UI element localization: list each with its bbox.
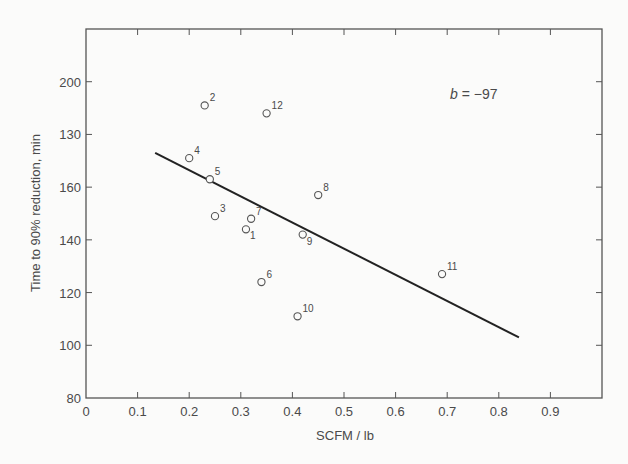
x-axis-label: SCFM / lb (316, 428, 374, 443)
point-label: 1 (250, 230, 256, 241)
x-tick-label: 0.3 (232, 404, 250, 419)
open-circle-marker (258, 278, 265, 285)
x-tick-label: 0.5 (335, 404, 353, 419)
open-circle-marker (211, 213, 218, 220)
y-axis-label: Time to 90% reduction, min (28, 134, 43, 292)
open-circle-marker (201, 102, 208, 109)
open-circle-marker (248, 215, 255, 222)
y-tick-label: 100 (59, 338, 81, 353)
open-circle-marker (206, 176, 213, 183)
open-circle-marker (186, 155, 193, 162)
x-tick-label: 0.8 (490, 404, 508, 419)
data-point: 7 (248, 206, 263, 223)
point-label: 10 (303, 303, 315, 314)
x-tick-label: 0.6 (387, 404, 405, 419)
point-label: 7 (256, 206, 262, 217)
y-tick-label: 200 (59, 75, 81, 90)
point-label: 11 (447, 261, 458, 272)
data-point: 3 (211, 203, 226, 220)
point-label: 5 (215, 166, 221, 177)
data-point: 2 (201, 92, 216, 109)
open-circle-marker (263, 110, 270, 117)
point-label: 3 (220, 203, 226, 214)
point-label: 6 (266, 269, 272, 280)
chart-svg: 00.10.20.30.40.50.60.70.80.9 80100120140… (0, 0, 628, 464)
point-label: 12 (272, 100, 284, 111)
data-point: 10 (294, 303, 314, 320)
plot-frame (86, 29, 602, 398)
scatter-chart: 00.10.20.30.40.50.60.70.80.9 80100120140… (0, 0, 628, 464)
open-circle-marker (315, 191, 322, 198)
y-tick-label: 80 (67, 391, 81, 406)
y-tick-label: 130 (59, 127, 81, 142)
point-label: 4 (194, 145, 200, 156)
point-label: 9 (307, 236, 313, 247)
y-tick-label: 120 (59, 286, 81, 301)
open-circle-marker (242, 226, 249, 233)
x-tick-label: 0.1 (129, 404, 147, 419)
data-point: 12 (263, 100, 283, 117)
y-axis: 80100120140160130200 (59, 75, 602, 406)
x-tick-label: 0 (82, 404, 89, 419)
data-point: 8 (315, 182, 330, 199)
x-tick-label: 0.2 (180, 404, 198, 419)
slope-annotation: b = −97 (450, 86, 498, 102)
data-point: 5 (206, 166, 221, 183)
data-point: 4 (186, 145, 201, 162)
point-label: 8 (323, 182, 329, 193)
x-tick-label: 0.9 (541, 404, 559, 419)
data-point: 6 (258, 269, 273, 286)
point-label: 2 (210, 92, 216, 103)
y-tick-label: 160 (59, 180, 81, 195)
x-tick-label: 0.7 (438, 404, 456, 419)
open-circle-marker (438, 271, 445, 278)
plot-border (86, 29, 602, 398)
x-tick-label: 0.4 (283, 404, 301, 419)
y-tick-label: 140 (59, 233, 81, 248)
open-circle-marker (299, 231, 306, 238)
data-point: 1 (242, 226, 256, 242)
data-point: 11 (438, 261, 457, 278)
open-circle-marker (294, 313, 301, 320)
data-point: 9 (299, 231, 313, 247)
